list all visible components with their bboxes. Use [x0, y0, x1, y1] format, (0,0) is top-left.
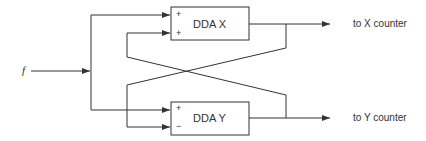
dday-input1-sign: +: [176, 104, 181, 113]
to-x-counter-label: to X counter: [353, 19, 407, 29]
ddax-input1-sign: +: [176, 10, 181, 19]
ddax-input2-sign: +: [176, 29, 181, 38]
feedback-y-to-x-line: [127, 33, 286, 118]
dda-x-label: DDA X: [193, 19, 226, 30]
input-f-label: f: [22, 65, 25, 76]
to-y-counter-label: to Y counter: [353, 113, 407, 123]
dday-input2-sign: −: [176, 122, 181, 131]
dda-y-label: DDA Y: [193, 113, 226, 124]
